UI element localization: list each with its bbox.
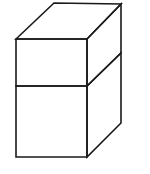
box-diagram [0, 0, 150, 174]
lower-block-side-face [87, 53, 121, 157]
upper-block-side-face [87, 4, 121, 86]
stacked-box [16, 3, 121, 157]
lower-block-front-face [16, 86, 87, 157]
upper-block-front-face [16, 39, 87, 86]
